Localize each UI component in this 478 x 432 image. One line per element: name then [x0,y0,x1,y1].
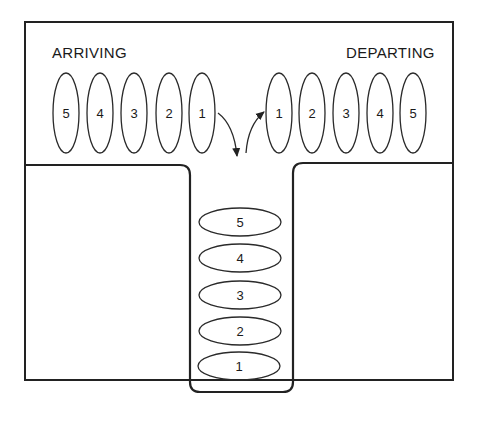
svg-text:2: 2 [308,106,315,121]
pop-arrow-icon [246,112,264,153]
svg-text:4: 4 [376,106,383,121]
stack-item: 1 [198,352,280,380]
svg-text:3: 3 [130,106,137,121]
stack-item: 3 [199,281,281,309]
push-arrow-icon [218,113,237,156]
svg-text:4: 4 [96,106,103,121]
svg-text:5: 5 [62,106,69,121]
arriving-item: 5 [53,73,79,153]
departing-item: 5 [400,73,426,153]
arriving-item: 1 [189,73,215,153]
svg-text:5: 5 [409,106,416,121]
stack-diagram: ARRIVING DEPARTING 5 4 3 2 1 1 [0,0,478,432]
svg-text:2: 2 [236,324,243,339]
arriving-item: 2 [156,73,182,153]
arriving-item: 4 [87,73,113,153]
svg-text:3: 3 [342,106,349,121]
svg-text:1: 1 [198,106,205,121]
svg-text:5: 5 [236,215,243,230]
svg-text:1: 1 [275,106,282,121]
departing-item: 1 [266,73,292,153]
arriving-item: 3 [121,73,147,153]
svg-text:1: 1 [235,359,242,374]
departing-queue: 1 2 3 4 5 [266,73,426,153]
departing-item: 4 [367,73,393,153]
departing-item: 2 [299,73,325,153]
stack-item: 2 [199,317,281,345]
stack-item: 5 [199,208,281,236]
departing-label: DEPARTING [346,44,435,61]
stack-item: 4 [199,244,281,272]
svg-text:4: 4 [236,251,243,266]
stack: 5 4 3 2 1 [198,208,281,380]
arriving-queue: 5 4 3 2 1 [53,73,215,153]
departing-item: 3 [333,73,359,153]
arriving-label: ARRIVING [52,44,127,61]
svg-text:3: 3 [236,288,243,303]
stack-siding-outline [25,163,453,392]
svg-text:2: 2 [165,106,172,121]
